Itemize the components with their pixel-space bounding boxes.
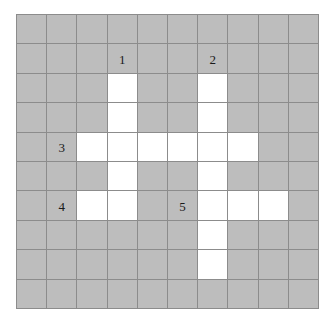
crossword-cell-block [259, 221, 289, 250]
crossword-cell-block: 5 [168, 191, 198, 220]
crossword-cell-block [17, 162, 47, 191]
clue-number: 3 [47, 140, 76, 153]
crossword-cell-block [259, 44, 289, 73]
crossword-cell-block [108, 221, 138, 250]
crossword-cell-block [47, 250, 77, 279]
crossword-cell-open[interactable] [259, 191, 289, 220]
crossword-cell-block [17, 221, 47, 250]
crossword-cell-block [77, 44, 107, 73]
crossword-grid: 12345 [16, 14, 319, 309]
crossword-cell-block: 2 [198, 44, 228, 73]
crossword-cell-block [198, 15, 228, 44]
crossword-cell-open[interactable] [77, 133, 107, 162]
crossword-cell-block [77, 221, 107, 250]
crossword-cell-block [228, 103, 258, 132]
crossword-cell-open[interactable] [198, 250, 228, 279]
crossword-cell-block [228, 162, 258, 191]
crossword-cell-block [289, 74, 319, 103]
crossword-cell-block [17, 250, 47, 279]
crossword-cell-block [168, 44, 198, 73]
crossword-cell-block [289, 162, 319, 191]
crossword-cell-block [259, 250, 289, 279]
crossword-cell-block [289, 15, 319, 44]
crossword-cell-block [108, 15, 138, 44]
crossword-cell-open[interactable] [198, 162, 228, 191]
crossword-cell-block: 4 [47, 191, 77, 220]
crossword-cell-block [168, 74, 198, 103]
crossword-cell-block [259, 103, 289, 132]
crossword-cell-block [108, 280, 138, 309]
crossword-cell-open[interactable] [228, 133, 258, 162]
crossword-cell-open[interactable] [198, 103, 228, 132]
crossword-cell-block [17, 74, 47, 103]
crossword-cell-block [259, 280, 289, 309]
crossword-cell-block [289, 250, 319, 279]
crossword-cell-block [289, 280, 319, 309]
crossword-cell-block [259, 15, 289, 44]
crossword-cell-block [138, 74, 168, 103]
crossword-cell-block [17, 191, 47, 220]
crossword-cell-block [168, 15, 198, 44]
crossword-cell-block [259, 162, 289, 191]
clue-number: 4 [47, 199, 76, 212]
crossword-cell-block [289, 191, 319, 220]
crossword-cell-block: 3 [47, 133, 77, 162]
crossword-cell-open[interactable] [168, 133, 198, 162]
crossword-cell-block [289, 44, 319, 73]
crossword-cell-block [228, 250, 258, 279]
crossword-cell-open[interactable] [138, 133, 168, 162]
crossword-cell-block [168, 221, 198, 250]
crossword-cell-block [47, 221, 77, 250]
crossword-cell-block [168, 250, 198, 279]
crossword-cell-block [228, 44, 258, 73]
crossword-cell-open[interactable] [198, 221, 228, 250]
crossword-cell-open[interactable] [108, 133, 138, 162]
crossword-cell-open[interactable] [108, 191, 138, 220]
crossword-cell-block [77, 74, 107, 103]
crossword-cell-block [228, 15, 258, 44]
crossword-cell-block: 1 [108, 44, 138, 73]
crossword-cell-block [138, 15, 168, 44]
crossword-cell-block [108, 250, 138, 279]
crossword-cell-block [259, 74, 289, 103]
crossword-cell-block [138, 191, 168, 220]
crossword-cell-open[interactable] [77, 191, 107, 220]
crossword-cell-block [17, 133, 47, 162]
crossword-cell-block [168, 280, 198, 309]
crossword-cell-open[interactable] [198, 191, 228, 220]
crossword-cell-block [138, 44, 168, 73]
crossword-cell-block [228, 280, 258, 309]
crossword-cell-block [138, 221, 168, 250]
crossword-cell-block [289, 221, 319, 250]
crossword-cell-block [47, 162, 77, 191]
crossword-cell-block [47, 74, 77, 103]
crossword-cell-open[interactable] [108, 74, 138, 103]
crossword-cell-block [138, 103, 168, 132]
crossword-cell-block [47, 280, 77, 309]
crossword-cell-open[interactable] [228, 191, 258, 220]
crossword-cell-open[interactable] [108, 162, 138, 191]
crossword-puzzle: 12345 [0, 0, 335, 326]
crossword-cell-block [259, 133, 289, 162]
crossword-cell-block [168, 103, 198, 132]
crossword-cell-block [289, 103, 319, 132]
crossword-cell-block [77, 162, 107, 191]
crossword-cell-block [77, 250, 107, 279]
crossword-cell-block [17, 15, 47, 44]
crossword-cell-block [228, 221, 258, 250]
clue-number: 2 [198, 52, 227, 65]
crossword-cell-block [198, 280, 228, 309]
crossword-cell-block [289, 133, 319, 162]
crossword-cell-block [77, 15, 107, 44]
crossword-cell-block [228, 74, 258, 103]
crossword-cell-block [47, 15, 77, 44]
crossword-cell-open[interactable] [198, 74, 228, 103]
crossword-cell-block [77, 280, 107, 309]
clue-number: 1 [108, 52, 137, 65]
crossword-cell-block [138, 280, 168, 309]
crossword-cell-block [138, 250, 168, 279]
clue-number: 5 [168, 199, 197, 212]
crossword-cell-block [47, 103, 77, 132]
crossword-cell-open[interactable] [198, 133, 228, 162]
crossword-cell-open[interactable] [108, 103, 138, 132]
